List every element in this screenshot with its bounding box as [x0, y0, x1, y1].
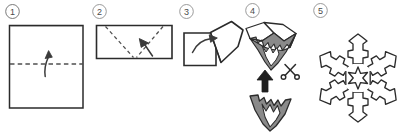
scissors-pivot	[289, 69, 291, 71]
step-number-label: 5	[318, 6, 323, 16]
instruction-diagram: 1 2 3	[0, 0, 404, 134]
step-number-label: 4	[250, 6, 255, 16]
diagram-canvas: 1 2 3	[0, 0, 404, 134]
step-number-label: 3	[184, 7, 189, 17]
paper-square	[10, 26, 84, 109]
paper-rectangle	[97, 26, 173, 59]
step-number-label: 2	[97, 7, 102, 17]
step-number-label: 1	[10, 7, 15, 17]
